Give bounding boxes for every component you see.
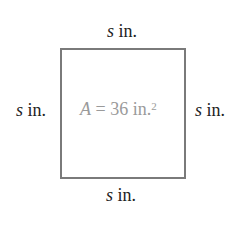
bottom-side-label: s in. [106,185,136,205]
left-side-label: s in. [16,100,46,120]
right-side-label: s in. [195,100,225,120]
top-side-label: s in. [107,21,137,41]
area-label: A = 36 in.2 [80,99,157,119]
